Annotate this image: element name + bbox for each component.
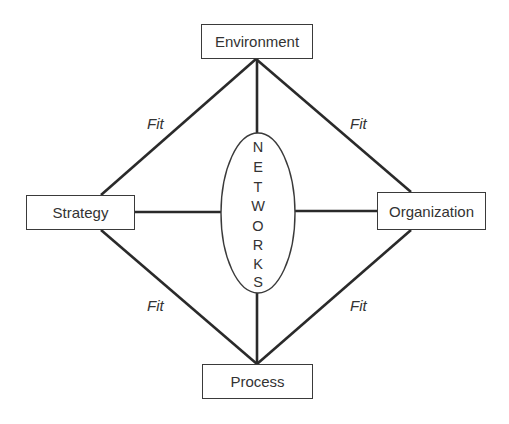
fit-label-bottom-left: Fit: [147, 297, 164, 314]
networks-letter: O: [248, 219, 268, 234]
node-strategy: Strategy: [26, 195, 135, 230]
networks-letter: K: [248, 257, 268, 272]
fit-label-top-right: Fit: [350, 115, 367, 132]
node-strategy-label: Strategy: [53, 204, 109, 221]
node-environment-label: Environment: [215, 33, 299, 50]
fit-label-bottom-right: Fit: [350, 297, 367, 314]
networks-letter: N: [248, 140, 268, 155]
networks-letter: S: [248, 275, 268, 290]
node-organization-label: Organization: [389, 203, 474, 220]
networks-letter: E: [248, 160, 268, 175]
node-organization: Organization: [377, 192, 486, 230]
networks-letter: R: [248, 238, 268, 253]
fit-label-top-left: Fit: [147, 115, 164, 132]
node-process-label: Process: [230, 373, 284, 390]
node-process: Process: [202, 364, 313, 399]
node-environment: Environment: [201, 24, 313, 59]
networks-letter: T: [248, 180, 268, 195]
networks-letter: W: [248, 199, 268, 214]
